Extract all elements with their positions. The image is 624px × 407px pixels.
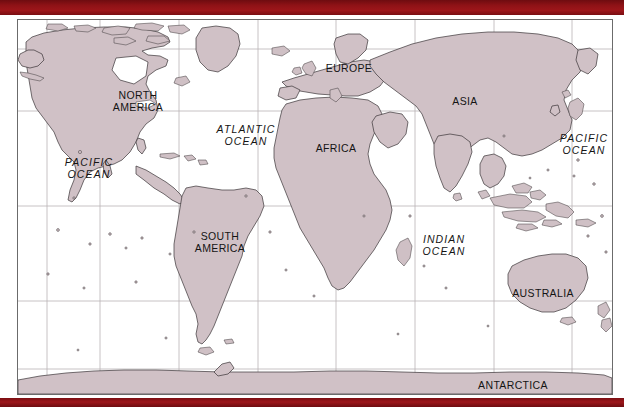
map-frame: .land { fill: #d0c1c6; stroke: #3a3436; … — [17, 19, 613, 395]
decorative-bottom-banner — [0, 398, 624, 407]
world-map-svg: .land { fill: #d0c1c6; stroke: #3a3436; … — [18, 20, 612, 394]
world-map-page: .land { fill: #d0c1c6; stroke: #3a3436; … — [0, 0, 624, 407]
map-canvas[interactable]: .land { fill: #d0c1c6; stroke: #3a3436; … — [18, 20, 612, 394]
decorative-top-banner — [0, 0, 624, 15]
